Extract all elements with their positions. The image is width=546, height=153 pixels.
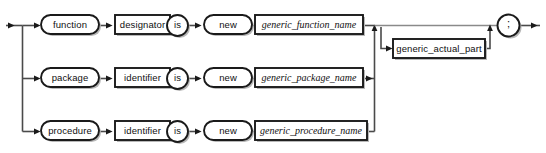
label-is-keyword-3: is	[174, 125, 181, 136]
node-procedure-keyword[interactable]: procedure	[41, 121, 101, 142]
node-new-keyword-2[interactable]: new	[204, 68, 254, 89]
node-package-keyword[interactable]: package	[41, 68, 101, 89]
node-function-keyword[interactable]: function	[41, 15, 101, 36]
node-designator-box[interactable]: designator	[115, 15, 172, 36]
node-generic-actual-part[interactable]: generic_actual_part	[393, 39, 487, 60]
node-generic-package-name[interactable]: generic_package_name	[255, 68, 365, 89]
label-new-keyword-3: new	[219, 125, 237, 136]
node-generic-procedure-name[interactable]: generic_procedure_name	[255, 121, 369, 142]
label-generic-function-name: generic_function_name	[262, 19, 357, 30]
node-generic-function-name[interactable]: generic_function_name	[255, 15, 365, 36]
node-new-keyword-1[interactable]: new	[204, 15, 254, 36]
label-is-keyword-1: is	[174, 19, 181, 30]
label-identifier-box-1: identifier	[124, 72, 161, 83]
label-semicolon-terminator: ;	[507, 17, 510, 29]
node-new-keyword-3[interactable]: new	[204, 121, 254, 142]
label-procedure-keyword: procedure	[48, 125, 92, 136]
node-identifier-box-2[interactable]: identifier	[115, 121, 172, 142]
label-new-keyword-2: new	[219, 72, 237, 83]
entry-wire	[6, 23, 23, 29]
label-is-keyword-2: is	[174, 72, 181, 83]
label-generic-package-name: generic_package_name	[262, 72, 358, 83]
node-identifier-box-1[interactable]: identifier	[115, 68, 172, 89]
label-package-keyword: package	[52, 72, 89, 83]
node-semicolon-terminator[interactable]: ;	[498, 15, 522, 39]
exit-wire	[520, 23, 540, 29]
label-function-keyword: function	[53, 19, 87, 30]
label-generic-actual-part: generic_actual_part	[396, 43, 482, 54]
label-identifier-box-2: identifier	[124, 125, 161, 136]
label-generic-procedure-name: generic_procedure_name	[260, 125, 363, 136]
railroad-canvas: function designator is new generic_funct…	[0, 0, 546, 153]
label-designator-box: designator	[120, 19, 165, 30]
label-new-keyword-1: new	[219, 19, 237, 30]
railroad-diagram: function designator is new generic_funct…	[0, 0, 546, 153]
